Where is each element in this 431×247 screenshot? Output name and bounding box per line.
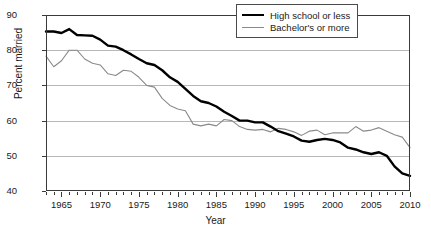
x-tick-minor-1989 — [247, 192, 248, 195]
x-tick-minor-2009 — [402, 192, 403, 195]
x-tick-label-1990: 1990 — [235, 199, 275, 210]
x-tick-minor-1987 — [232, 192, 233, 195]
x-tick-minor-1963 — [46, 192, 47, 195]
x-tick-minor-1991 — [263, 192, 264, 195]
x-tick-minor-1979 — [170, 192, 171, 195]
x-tick-minor-2008 — [395, 192, 396, 195]
y-tick-label-90: 90 — [0, 10, 17, 20]
x-tick-minor-1993 — [278, 192, 279, 195]
x-tick-label-2005: 2005 — [351, 199, 391, 210]
x-tick-minor-1976 — [147, 192, 148, 195]
x-tick-minor-1981 — [185, 192, 186, 195]
legend-swatch-bachelors-or-more — [242, 27, 264, 28]
x-tick-major-2005 — [371, 192, 372, 197]
x-tick-minor-2002 — [348, 192, 349, 195]
x-tick-minor-1983 — [201, 192, 202, 195]
x-tick-minor-1996 — [302, 192, 303, 195]
line-high-school-or-less — [46, 29, 410, 176]
data-series-layer — [46, 15, 410, 191]
x-tick-minor-1974 — [131, 192, 132, 195]
y-tick-label-70: 70 — [0, 80, 17, 90]
x-tick-minor-1984 — [209, 192, 210, 195]
plot-area — [46, 15, 410, 191]
y-axis-title: Percent married — [13, 4, 24, 124]
x-tick-minor-1969 — [92, 192, 93, 195]
legend-label-bachelors-or-more: Bachelor's or more — [270, 22, 349, 33]
x-tick-label-2010: 2010 — [390, 199, 430, 210]
x-tick-minor-1997 — [309, 192, 310, 195]
x-tick-label-1965: 1965 — [41, 199, 81, 210]
y-tick-label-50: 50 — [0, 151, 17, 161]
x-tick-minor-1994 — [286, 192, 287, 195]
legend-label-high-school-or-less: High school or less — [270, 10, 350, 21]
x-tick-minor-1967 — [77, 192, 78, 195]
chart-legend: High school or less Bachelor's or more — [236, 4, 358, 38]
y-tick-label-60: 60 — [0, 116, 17, 126]
x-tick-major-1990 — [255, 192, 256, 197]
x-tick-label-1995: 1995 — [274, 199, 314, 210]
x-tick-minor-1998 — [317, 192, 318, 195]
x-tick-label-1985: 1985 — [196, 199, 236, 210]
x-tick-minor-1968 — [85, 192, 86, 195]
line-bachelors-or-more — [46, 50, 410, 148]
y-tick-label-40: 40 — [0, 186, 17, 196]
x-tick-major-1985 — [216, 192, 217, 197]
x-axis-title: Year — [0, 215, 431, 226]
y-tick-mark-50 — [42, 156, 46, 157]
x-tick-minor-1999 — [325, 192, 326, 195]
x-tick-label-1980: 1980 — [158, 199, 198, 210]
x-tick-major-1995 — [294, 192, 295, 197]
x-tick-minor-1977 — [154, 192, 155, 195]
legend-item-high-school-or-less: High school or less — [242, 9, 350, 21]
x-tick-minor-1978 — [162, 192, 163, 195]
x-tick-label-1975: 1975 — [119, 199, 159, 210]
legend-swatch-high-school-or-less — [242, 14, 264, 16]
legend-item-bachelors-or-more: Bachelor's or more — [242, 21, 350, 33]
x-tick-minor-2001 — [340, 192, 341, 195]
x-tick-major-2000 — [333, 192, 334, 197]
y-tick-label-80: 80 — [0, 45, 17, 55]
x-tick-major-1970 — [100, 192, 101, 197]
x-tick-minor-1972 — [116, 192, 117, 195]
x-tick-minor-1988 — [240, 192, 241, 195]
x-tick-minor-1992 — [271, 192, 272, 195]
x-tick-minor-1964 — [54, 192, 55, 195]
chart-figure: Percent married 908070605040 19651970197… — [0, 0, 431, 247]
x-tick-minor-2003 — [356, 192, 357, 195]
x-tick-label-2000: 2000 — [313, 199, 353, 210]
x-tick-minor-1986 — [224, 192, 225, 195]
x-tick-minor-2007 — [387, 192, 388, 195]
x-tick-minor-1971 — [108, 192, 109, 195]
x-tick-major-2010 — [410, 192, 411, 197]
y-tick-mark-80 — [42, 50, 46, 51]
x-tick-label-1970: 1970 — [80, 199, 120, 210]
x-tick-major-1975 — [139, 192, 140, 197]
y-tick-mark-90 — [42, 15, 46, 16]
x-tick-minor-1966 — [69, 192, 70, 195]
y-tick-mark-60 — [42, 121, 46, 122]
x-tick-minor-1982 — [193, 192, 194, 195]
x-tick-minor-2006 — [379, 192, 380, 195]
x-tick-major-1980 — [178, 192, 179, 197]
x-tick-major-1965 — [61, 192, 62, 197]
y-tick-mark-70 — [42, 85, 46, 86]
x-tick-minor-2004 — [364, 192, 365, 195]
x-tick-minor-1973 — [123, 192, 124, 195]
